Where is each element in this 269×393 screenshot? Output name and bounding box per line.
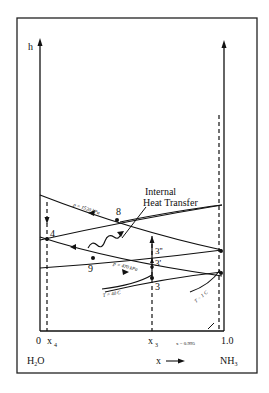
arrow-down-icon (45, 217, 50, 224)
h2o-label: H2O (27, 355, 44, 367)
x0995-label: x = 0.995 (176, 341, 196, 346)
arrow-right-icon (178, 359, 185, 364)
point-3 (150, 276, 154, 280)
curve-4-to-vapor (40, 205, 222, 240)
curve-lower (105, 272, 222, 292)
x-right-value: 1.0 (221, 335, 234, 346)
point-3-prime (150, 265, 154, 269)
x0995-leader (208, 323, 214, 329)
x3-sub: 3 (155, 342, 158, 348)
x-axis-label: x (156, 355, 161, 366)
arrow-right-icon (122, 269, 129, 275)
heat-transfer-wave (88, 232, 122, 248)
x4-label: x (47, 335, 52, 346)
point-4 (45, 237, 49, 241)
point-4-label: 4 (50, 228, 55, 239)
point-8 (115, 218, 119, 222)
isotherm-40-label: T = 40 C (102, 290, 121, 298)
point-right-mid (219, 249, 223, 253)
arrow-up-icon (38, 38, 43, 46)
figure-frame (17, 18, 257, 373)
point-3-label: 3 (155, 281, 160, 292)
y-axis-label: h (28, 41, 33, 52)
point-3-double-prime-label: 3'' (155, 246, 163, 256)
point-3-prime-label: 3' (155, 258, 162, 268)
nh3-label: NH3 (220, 355, 237, 367)
arrow-left-icon (70, 244, 76, 250)
annotation-line2: Heat Transfer (143, 197, 198, 208)
arrow-up-icon (222, 40, 227, 48)
point-9 (91, 256, 95, 260)
point-right-low (219, 271, 223, 275)
point-9-label: 9 (88, 263, 93, 274)
point-8-label: 8 (116, 206, 121, 217)
arrow-up-icon (150, 236, 155, 243)
annotation-line1: Internal (145, 186, 176, 197)
x-left-value: 0 (36, 335, 41, 346)
x4-sub: 4 (54, 342, 57, 348)
h-x-diagram: h Internal Heat Transfer p = 1520 kPa p … (0, 0, 269, 393)
x3-label: x (148, 335, 153, 346)
isotherm-1-label: T = 1 C (193, 289, 209, 303)
